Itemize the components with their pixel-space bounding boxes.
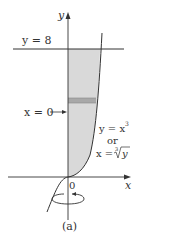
line-y-8-label: y = 8 [21,34,51,47]
pointer-arrow-icon [62,110,67,114]
curve-eq2-lhs: x = [96,148,113,159]
curve-or: or [107,135,118,146]
curve-eq2-radicand: y [121,148,128,159]
x-equals-0-label: x = 0 [24,106,53,119]
figure-caption: (a) [62,220,77,233]
x-axis-label: x [125,179,132,192]
diagram: y x 0 y = 8 x = 0 y = x 3 or x = 3 y (a) [0,0,183,243]
curve-eq1-exponent: 3 [125,120,129,127]
curve-eq1: y = x [98,123,125,134]
horizontal-strip [68,98,96,103]
y-axis-label: y [57,9,65,22]
y-axis-arrow-icon [66,12,71,19]
origin-label: 0 [69,180,75,191]
curve-eq2-index: 3 [115,146,118,152]
